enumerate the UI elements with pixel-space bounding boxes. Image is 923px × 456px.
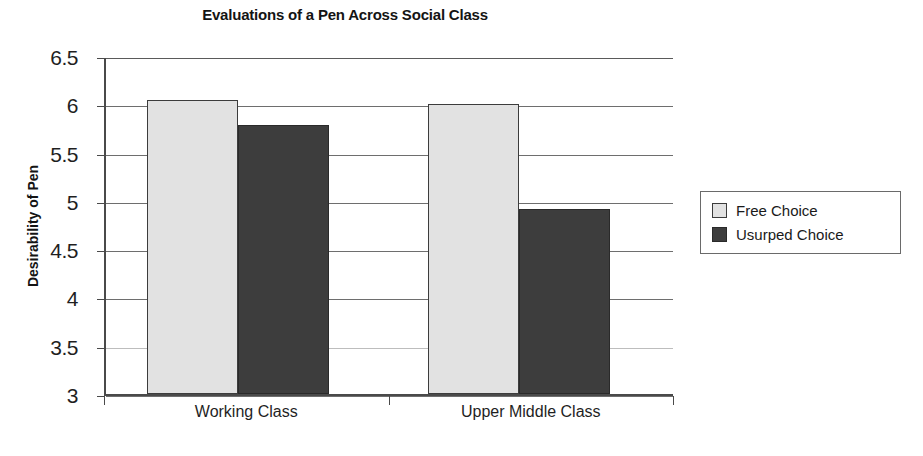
x-axis-category-label: Working Class <box>104 403 389 421</box>
legend-item[interactable]: Free Choice <box>712 198 900 222</box>
gridline <box>106 396 673 397</box>
y-axis-tick-label: 5.5 <box>0 143 78 167</box>
legend-swatch-free-choice <box>712 203 727 218</box>
y-axis-tick-label: 3 <box>0 384 78 408</box>
gridline <box>106 58 673 59</box>
plot-area <box>104 58 673 396</box>
bar-chart: Evaluations of a Pen Across Social Class… <box>0 0 923 456</box>
y-axis-tick-label: 6 <box>0 94 78 118</box>
y-axis-tick-label: 6.5 <box>0 46 78 70</box>
legend-swatch-usurped-choice <box>712 227 727 242</box>
bar-upper-middle-class-free-choice <box>428 104 519 394</box>
chart-title: Evaluations of a Pen Across Social Class <box>0 6 690 23</box>
y-axis-tick-label: 5 <box>0 191 78 215</box>
y-axis-tick-label: 4 <box>0 287 78 311</box>
bar-working-class-usurped-choice <box>238 125 329 394</box>
x-axis-tick-mark <box>673 396 674 405</box>
legend-label: Usurped Choice <box>736 226 844 243</box>
x-axis-category-label: Upper Middle Class <box>389 403 674 421</box>
legend: Free ChoiceUsurped Choice <box>700 191 901 254</box>
y-axis-tick-label: 3.5 <box>0 336 78 360</box>
legend-label: Free Choice <box>736 202 818 219</box>
bar-working-class-free-choice <box>147 100 238 394</box>
y-axis-tick-label: 4.5 <box>0 239 78 263</box>
bar-upper-middle-class-usurped-choice <box>519 209 610 394</box>
legend-item[interactable]: Usurped Choice <box>712 222 900 246</box>
